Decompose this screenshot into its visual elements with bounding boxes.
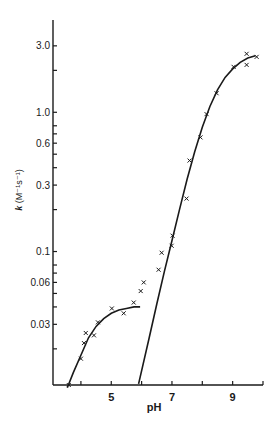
x-tick-label: 5 xyxy=(108,391,114,403)
y-axis-label: k (M⁻¹s⁻¹) xyxy=(14,169,24,211)
fit-curve xyxy=(67,307,140,388)
data-point-x-marker xyxy=(122,311,126,315)
data-point-x-marker xyxy=(157,268,161,272)
data-point-x-marker xyxy=(139,289,143,293)
fit-curves xyxy=(67,56,255,388)
data-point-x-marker xyxy=(84,331,88,335)
data-point-x-marker xyxy=(132,301,136,305)
y-tick-label: 0.3 xyxy=(36,180,50,191)
data-point-x-marker xyxy=(110,306,114,310)
x-tick-label: 7 xyxy=(169,391,175,403)
data-markers xyxy=(67,52,259,387)
y-tick-label: 0.6 xyxy=(36,138,50,149)
y-tick-label: 3.0 xyxy=(36,40,50,51)
data-point-x-marker xyxy=(188,159,192,163)
data-point-x-marker xyxy=(185,197,189,201)
y-tick-label: 0.1 xyxy=(36,246,50,257)
data-point-x-marker xyxy=(255,55,259,59)
chart: 5793.01.00.60.30.10.060.03 pH k (M⁻¹s⁻¹) xyxy=(0,0,276,433)
y-tick-label: 0.06 xyxy=(31,277,51,288)
data-point-x-marker xyxy=(245,63,249,67)
data-point-x-marker xyxy=(92,333,96,337)
x-axis-label: pH xyxy=(147,401,162,413)
y-tick-label: 1.0 xyxy=(36,107,50,118)
data-point-x-marker xyxy=(160,251,164,255)
x-tick-label: 9 xyxy=(230,391,236,403)
fit-curve xyxy=(139,56,256,384)
y-tick-label: 0.03 xyxy=(31,319,51,330)
data-point-x-marker xyxy=(245,52,249,56)
data-point-x-marker xyxy=(142,280,146,284)
